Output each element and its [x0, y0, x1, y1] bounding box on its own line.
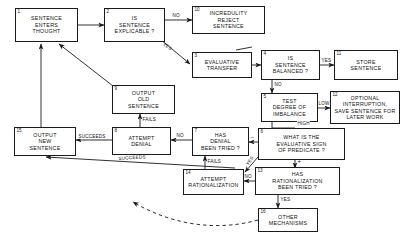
- edge-label-fails-7-to-14: FAILS: [207, 159, 222, 164]
- node-10-number: 10: [195, 7, 200, 12]
- node-10-label: INCREDULITY REJECT SENTENCE: [207, 10, 249, 29]
- node-10-incredulity-reject-sentence[interactable]: 10 INCREDULITY REJECT SENTENCE: [192, 6, 265, 34]
- edge-label-succeeds-8-to-15: SUCCEEDS: [78, 134, 106, 139]
- node-11-label: STORE SENTENCE: [349, 59, 384, 72]
- node-9-number: 9: [115, 86, 118, 91]
- node-8-number: 8: [115, 128, 118, 133]
- node-5-label: TEST DEGREE OF IMBALANCE: [271, 98, 308, 117]
- node-1-number: 1: [18, 9, 21, 14]
- edge-label-low-5-to-12: LOW: [318, 101, 330, 106]
- node-4-is-sentence-balanced[interactable]: 4 IS SENTENCE BALANCED ?: [261, 50, 320, 80]
- node-15-label: OUTPUT NEW SENTENCE: [28, 132, 63, 151]
- node-6-evaluative-sign-of-predicate[interactable]: 6 WHAT IS THE EVALUATIVE SIGN OF PREDICA…: [258, 128, 345, 160]
- node-6-label: WHAT IS THE EVALUATIVE SIGN OF PREDICATE…: [274, 134, 328, 153]
- node-14-attempt-rationalization[interactable]: 14 ATTEMPT RATIONALIZATION: [183, 169, 244, 195]
- node-14-label: ATTEMPT RATIONALIZATION: [186, 176, 240, 189]
- node-1-sentence-enters-thought[interactable]: 1 SENTENCE ENTERS THOUGHT: [15, 8, 78, 42]
- edge-label-fails-8-to-9: FAILS: [142, 117, 157, 122]
- node-7-number: 7: [195, 128, 198, 133]
- edge-label-no-7-to-8: NO: [176, 133, 184, 138]
- node-11-number: 11: [337, 51, 342, 56]
- decoration-tick: [236, 47, 252, 50]
- node-7-label: HAS DENIAL BEEN TRIED ?: [199, 132, 242, 151]
- edge-label-no-2-to-10: NO: [172, 13, 180, 18]
- edge-label-high-5-to-6: HIGH: [297, 121, 310, 126]
- node-3-evaluative-transfer[interactable]: 3 EVALUATIVE TRANSFER: [192, 52, 252, 78]
- node-12-optional-interruption[interactable]: 12 OPTIONAL INTERRUPTION, SAVE SENTENCE …: [330, 91, 400, 124]
- node-2-label: IS SENTENCE EXPLICABLE ?: [113, 15, 157, 34]
- node-7-has-denial-been-tried[interactable]: 7 HAS DENIAL BEEN TRIED ?: [192, 127, 249, 156]
- node-3-number: 3: [195, 53, 198, 58]
- node-8-label: ATTEMPT DENIAL: [126, 135, 156, 148]
- edge-label-yes-13-to-16: YES: [280, 197, 291, 202]
- node-13-has-rationalization-been-tried[interactable]: 13 HAS RATIONALIZATION BEEN TRIED ?: [255, 167, 340, 195]
- node-9-label: OUTPUT OLD SENTENCE: [126, 90, 161, 109]
- node-8-attempt-denial[interactable]: 8 ATTEMPT DENIAL: [112, 127, 171, 155]
- node-16-label: OTHER MECHANISMS: [267, 214, 309, 227]
- node-4-label: IS SENTENCE BALANCED ?: [271, 55, 310, 74]
- node-14-number: 14: [186, 170, 191, 175]
- node-9-output-old-sentence[interactable]: 9 OUTPUT OLD SENTENCE: [112, 85, 175, 114]
- edge-label-yes-4-to-11: YES: [321, 58, 332, 63]
- node-12-number: 12: [333, 92, 338, 97]
- node-15-number: 15: [17, 128, 22, 133]
- node-15-output-new-sentence[interactable]: 15 OUTPUT NEW SENTENCE: [14, 127, 76, 156]
- node-4-number: 4: [264, 51, 267, 56]
- node-13-number: 13: [258, 168, 263, 173]
- node-2-is-sentence-explicable[interactable]: 2 IS SENTENCE EXPLICABLE ?: [104, 8, 165, 42]
- edge-label-no-4-to-5: NO: [274, 82, 282, 87]
- edge-9-to-1: [59, 44, 113, 86]
- edge-label-minus-6-to-7: –: [250, 135, 255, 140]
- node-12-label: OPTIONAL INTERRUPTION, SAVE SENTENCE FOR…: [333, 95, 398, 121]
- node-5-number: 5: [264, 94, 267, 99]
- node-1-label: SENTENCE ENTERS THOUGHT: [29, 15, 64, 34]
- edge-label-plus-6-to-13: +: [297, 159, 302, 164]
- node-16-number: 16: [261, 209, 266, 214]
- node-5-test-degree-of-imbalance[interactable]: 5 TEST DEGREE OF IMBALANCE: [261, 93, 318, 122]
- node-16-other-mechanisms[interactable]: 16 OTHER MECHANISMS: [258, 208, 318, 232]
- node-13-label: HAS RATIONALIZATION BEEN TRIED ?: [270, 171, 324, 190]
- node-11-store-sentence[interactable]: 11 STORE SENTENCE: [334, 50, 398, 80]
- node-3-label: EVALUATIVE TRANSFER: [203, 59, 241, 72]
- node-6-number: 6: [261, 129, 264, 134]
- edge-16-feedback-dashed: [133, 202, 258, 226]
- flowchart-canvas: 1 SENTENCE ENTERS THOUGHT 2 IS SENTENCE …: [0, 0, 408, 250]
- node-2-number: 2: [107, 9, 110, 14]
- edge-label-no-13-to-14: NO: [244, 174, 252, 179]
